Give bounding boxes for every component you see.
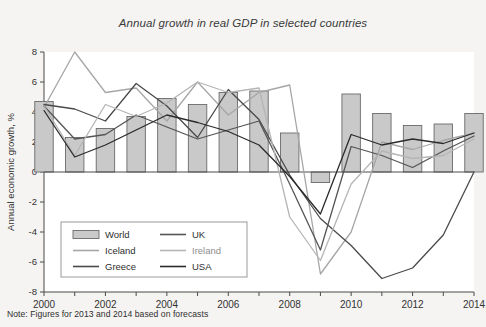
chart-figure: Annual growth in real GDP in selected co…: [0, 0, 486, 327]
x-tick-label: 2012: [401, 299, 424, 310]
y-tick-label: -8: [29, 286, 37, 297]
x-tick-label: 2010: [340, 299, 363, 310]
legend-label-iceland: Iceland: [105, 245, 136, 256]
bar-world-2010: [342, 94, 360, 172]
bar-world-2008: [281, 133, 299, 172]
legend-label-greece: Greece: [105, 261, 136, 272]
legend-label-world: World: [105, 229, 130, 240]
bar-world-2004: [158, 99, 176, 173]
legend-label-ireland: Ireland: [192, 245, 221, 256]
y-tick-label: 8: [32, 46, 37, 57]
bar-world-2003: [127, 117, 145, 173]
legend-label-uk: UK: [192, 229, 206, 240]
plot-area: 86420-2-4-6-8200020022004200620082010201…: [0, 0, 486, 327]
x-tick-label: 2014: [463, 299, 486, 310]
x-tick-label: 2006: [217, 299, 240, 310]
chart-footnote: Note: Figures for 2013 and 2014 based on…: [7, 309, 208, 319]
legend-swatch-world: [73, 231, 99, 239]
y-tick-label: -6: [29, 256, 37, 267]
y-axis-label: Annual economic growth, %: [5, 113, 16, 231]
gdp-growth-chart: 86420-2-4-6-8200020022004200620082010201…: [0, 0, 486, 327]
x-tick-label: 2008: [279, 299, 302, 310]
bar-world-2009: [311, 172, 329, 183]
y-tick-label: -2: [29, 196, 37, 207]
y-tick-label: 6: [32, 76, 37, 87]
bar-world-2005: [188, 105, 206, 173]
legend-label-usa: USA: [192, 261, 212, 272]
y-tick-label: -4: [29, 226, 37, 237]
